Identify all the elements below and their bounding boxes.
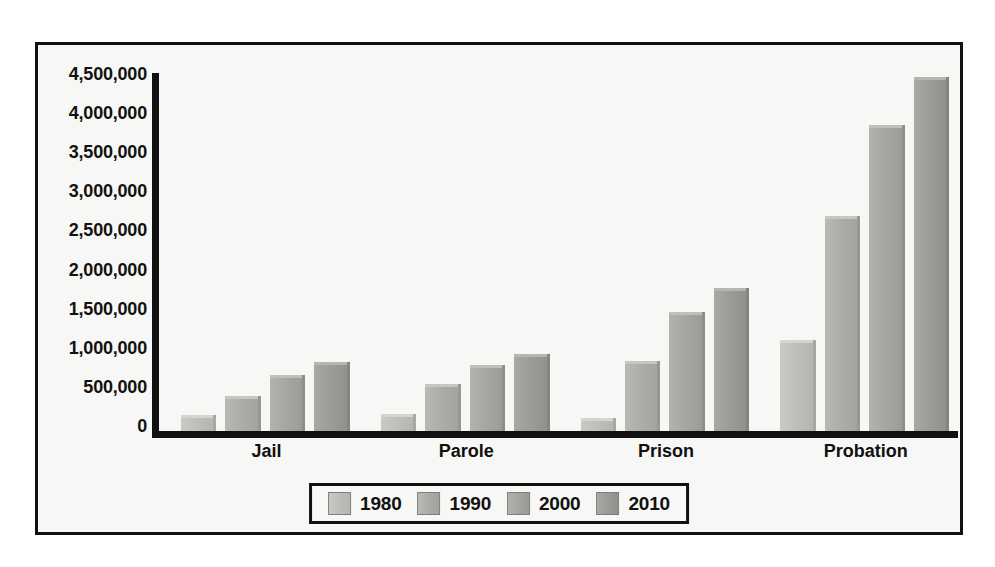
bar-group: [381, 73, 559, 431]
bar-top-highlight: [869, 125, 904, 128]
bar-side-shadow: [347, 362, 350, 431]
bar-top-highlight: [181, 415, 216, 418]
bar[interactable]: [669, 312, 704, 431]
bar-top-highlight: [270, 375, 305, 378]
bar-group-bars: [381, 73, 559, 431]
bar-side-shadow: [813, 340, 816, 431]
bar-top-highlight: [625, 361, 660, 364]
legend-label: 2010: [628, 493, 669, 515]
y-axis-tick: 4,500,000: [69, 64, 147, 85]
bar[interactable]: [780, 340, 815, 431]
bar-side-shadow: [258, 396, 261, 431]
bar[interactable]: [181, 415, 216, 431]
legend-item-1990[interactable]: 1990: [418, 492, 491, 515]
x-axis-category-labels: JailParolePrisonProbation: [159, 441, 958, 471]
legend-item-2010[interactable]: 2010: [596, 492, 669, 515]
bar-top-highlight: [381, 414, 416, 417]
y-axis-tick: 2,000,000: [69, 259, 147, 280]
y-axis-line: [152, 73, 159, 431]
bar-top-highlight: [425, 384, 460, 387]
x-axis-line: [152, 431, 958, 438]
x-axis-category-probation: Probation: [824, 441, 908, 462]
bar-group: [181, 73, 359, 431]
plot-wrapper: 4,500,0004,000,0003,500,0003,000,0002,50…: [38, 45, 960, 532]
bar-side-shadow: [413, 414, 416, 432]
bar[interactable]: [714, 288, 749, 431]
y-axis-tick: 0: [137, 416, 147, 437]
bar-group-bars: [181, 73, 359, 431]
legend-swatch-icon: [328, 492, 351, 515]
bar-side-shadow: [746, 288, 749, 431]
legend-item-1980[interactable]: 1980: [328, 492, 401, 515]
bar-top-highlight: [780, 340, 815, 343]
y-axis-tick: 1,500,000: [69, 298, 147, 319]
bar-top-highlight: [825, 216, 860, 219]
bar-top-highlight: [314, 362, 349, 365]
y-axis-tick: 2,500,000: [69, 220, 147, 241]
bar-top-highlight: [581, 418, 616, 421]
bar[interactable]: [914, 77, 949, 431]
chart-panel: 4,500,0004,000,0003,500,0003,000,0002,50…: [35, 42, 963, 535]
legend-item-2000[interactable]: 2000: [507, 492, 580, 515]
bar-group: [581, 73, 759, 431]
bar[interactable]: [869, 125, 904, 431]
bar[interactable]: [225, 396, 260, 431]
x-axis-category-prison: Prison: [638, 441, 694, 462]
legend-label: 2000: [539, 493, 580, 515]
y-axis-tick: 500,000: [83, 376, 147, 397]
x-axis-category-parole: Parole: [439, 441, 494, 462]
legend-swatch-icon: [507, 492, 530, 515]
y-axis-tick: 3,500,000: [69, 142, 147, 163]
bar[interactable]: [825, 216, 860, 431]
bar[interactable]: [470, 365, 505, 431]
bar-side-shadow: [302, 375, 305, 431]
bar[interactable]: [381, 414, 416, 432]
bar-side-shadow: [502, 365, 505, 431]
bar-side-shadow: [657, 361, 660, 431]
bar-top-highlight: [225, 396, 260, 399]
bar-top-highlight: [514, 354, 549, 357]
bar-group: [780, 73, 958, 431]
bar[interactable]: [270, 375, 305, 431]
bar[interactable]: [514, 354, 549, 431]
bar[interactable]: [314, 362, 349, 431]
bar-side-shadow: [613, 418, 616, 431]
bar-side-shadow: [213, 415, 216, 431]
bar-group-bars: [780, 73, 958, 431]
bar-side-shadow: [857, 216, 860, 431]
bar-top-highlight: [669, 312, 704, 315]
bar-group-bars: [581, 73, 759, 431]
y-axis-tick: 4,000,000: [69, 103, 147, 124]
bar-side-shadow: [702, 312, 705, 431]
legend-label: 1980: [360, 493, 401, 515]
plot-area: [159, 73, 958, 431]
y-axis-tick: 1,000,000: [69, 337, 147, 358]
legend-swatch-icon: [596, 492, 619, 515]
legend-swatch-icon: [418, 492, 441, 515]
x-axis-category-jail: Jail: [251, 441, 281, 462]
y-axis-tick-labels: 4,500,0004,000,0003,500,0003,000,0002,50…: [44, 73, 147, 425]
bar[interactable]: [581, 418, 616, 431]
bar-side-shadow: [547, 354, 550, 431]
legend-label: 1990: [450, 493, 491, 515]
bar-top-highlight: [470, 365, 505, 368]
bar[interactable]: [425, 384, 460, 431]
bar-side-shadow: [946, 77, 949, 431]
bar[interactable]: [625, 361, 660, 431]
bar-side-shadow: [458, 384, 461, 431]
y-axis-tick: 3,000,000: [69, 181, 147, 202]
bar-top-highlight: [914, 77, 949, 80]
bar-top-highlight: [714, 288, 749, 291]
chart-legend: 1980199020002010: [309, 483, 689, 524]
bar-side-shadow: [902, 125, 905, 431]
